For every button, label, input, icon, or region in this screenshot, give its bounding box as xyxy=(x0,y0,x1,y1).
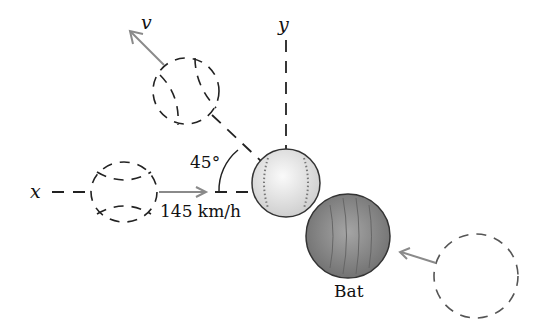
velocity-label: v xyxy=(141,11,152,33)
angle-arc xyxy=(219,150,238,192)
diagram-graphics xyxy=(0,0,546,336)
bat-label: Bat xyxy=(334,281,363,301)
speed-label: 145 km/h xyxy=(160,201,241,221)
x-axis-label: x xyxy=(30,180,41,202)
velocity-arrow xyxy=(130,31,164,65)
ghost-ball-outgoing xyxy=(153,58,219,125)
bat-end xyxy=(306,194,390,278)
bat-ghost-circle xyxy=(434,234,518,318)
incoming-velocity-arrow xyxy=(159,187,206,197)
baseball xyxy=(252,149,320,217)
y-axis-label: y xyxy=(278,13,289,35)
bat-velocity-arrow xyxy=(400,248,436,263)
diagram-canvas: x y v 45° 145 km/h Bat xyxy=(0,0,546,336)
angle-label: 45° xyxy=(190,152,220,172)
ghost-ball-incoming xyxy=(91,162,157,222)
